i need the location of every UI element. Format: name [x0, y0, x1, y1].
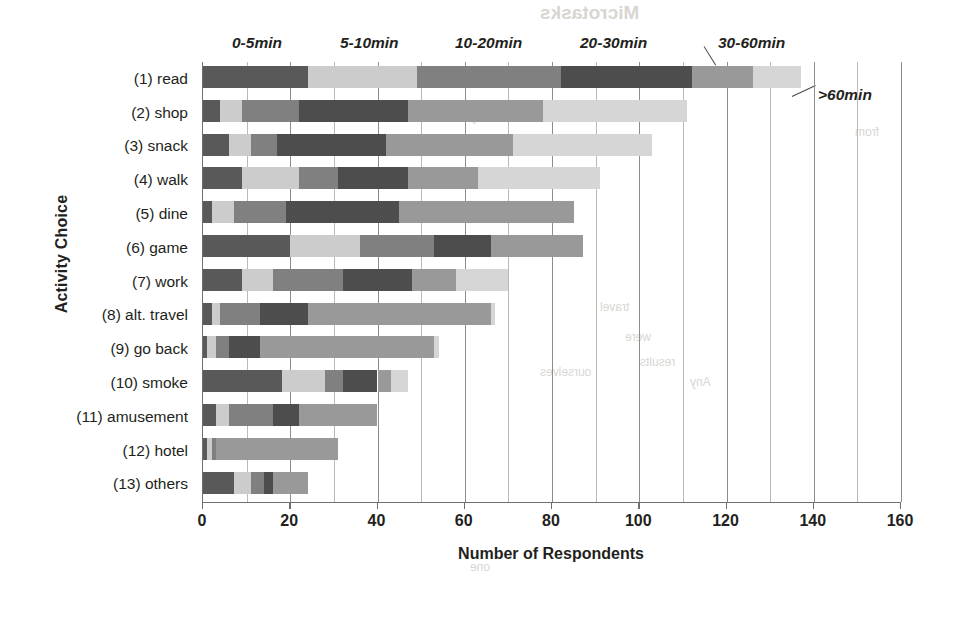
bar-segment: [308, 66, 417, 88]
bar-segment: [203, 66, 308, 88]
bar-segment: [251, 472, 264, 494]
legend-label-5-10min: 5-10min: [340, 34, 399, 52]
bar-segment: [242, 100, 299, 122]
bar-segment: [391, 370, 408, 392]
x-axis-tickmark: [551, 502, 552, 509]
y-axis-category-label: (2) shop: [0, 96, 196, 130]
bar-segment: [203, 201, 212, 223]
x-axis-tick-label: 0: [198, 512, 207, 530]
bar-segment: [543, 100, 687, 122]
bar-segment: [260, 303, 308, 325]
bar-row: [203, 167, 901, 189]
bar-segment: [338, 167, 408, 189]
y-axis-category-label: (4) walk: [0, 163, 196, 197]
bar-segment: [203, 472, 234, 494]
x-axis-tick-label: 160: [887, 512, 914, 530]
y-axis-category-label: (5) dine: [0, 197, 196, 231]
bar-segment: [216, 336, 229, 358]
ghost-text-title: Microtasks: [540, 2, 639, 24]
bar-segment: [299, 167, 338, 189]
y-axis-category-label: (12) hotel: [0, 434, 196, 468]
bar-segment: [408, 100, 543, 122]
x-axis-tick-label: 120: [712, 512, 739, 530]
bar-segment: [273, 404, 299, 426]
bar-segment: [264, 472, 273, 494]
bar-segment: [491, 303, 495, 325]
bar-row: [203, 370, 901, 392]
bar-row: [203, 66, 901, 88]
x-axis-tick-label: 140: [799, 512, 826, 530]
bar-segment: [456, 269, 508, 291]
bar-segment: [229, 134, 251, 156]
bar-segment: [251, 134, 277, 156]
x-axis-tick-label: 80: [542, 512, 560, 530]
bar-segment: [478, 167, 600, 189]
bar-segment: [203, 235, 290, 257]
legend-label-10-20min: 10-20min: [455, 34, 522, 52]
legend-label-30-60min: 30-60min: [718, 34, 785, 52]
bar-segment: [753, 66, 801, 88]
bar-row: [203, 235, 901, 257]
bar-segment: [399, 201, 574, 223]
bar-segment: [203, 303, 212, 325]
bar-segment: [417, 66, 561, 88]
bar-row: [203, 472, 901, 494]
x-axis-tickmark: [900, 502, 901, 509]
y-axis-category-label: (9) go back: [0, 332, 196, 366]
bar-segment: [434, 235, 491, 257]
bar-segment: [234, 201, 286, 223]
bar-segment: [277, 134, 386, 156]
x-axis-tick-label: 60: [455, 512, 473, 530]
bar-segment: [513, 134, 653, 156]
bar-segment: [242, 167, 299, 189]
y-axis-category-label: (8) alt. travel: [0, 299, 196, 333]
bar-row: [203, 438, 901, 460]
y-axis-category-label: (3) snack: [0, 130, 196, 164]
bar-segment: [216, 404, 229, 426]
legend-label-0-5min: 0-5min: [232, 34, 282, 52]
legend: 0-5min5-10min10-20min20-30min30-60min: [0, 34, 957, 58]
bar-segment: [260, 336, 435, 358]
bar-segment: [290, 235, 360, 257]
bar-row: [203, 269, 901, 291]
bar-segment: [203, 269, 242, 291]
bar-segment: [216, 438, 338, 460]
x-axis-tickmark: [289, 502, 290, 509]
x-axis-tick-label: 40: [368, 512, 386, 530]
bar-segment: [408, 167, 478, 189]
bar-segment: [434, 336, 438, 358]
y-axis-category-label: (10) smoke: [0, 366, 196, 400]
bar-segment: [203, 134, 229, 156]
bar-segment: [220, 100, 242, 122]
bar-row: [203, 201, 901, 223]
x-axis-tick-label: 20: [280, 512, 298, 530]
plot-area: [202, 62, 901, 502]
bar-segment: [343, 370, 378, 392]
x-axis-tickmark: [464, 502, 465, 509]
bar-segment: [212, 303, 221, 325]
bar-segment: [378, 370, 391, 392]
bar-segment: [286, 201, 399, 223]
y-axis-category-label: (6) game: [0, 231, 196, 265]
x-axis-tickmark: [638, 502, 639, 509]
bar-segment: [308, 303, 491, 325]
y-axis-category-label: (1) read: [0, 62, 196, 96]
bar-segment: [386, 134, 513, 156]
bar-segment: [203, 167, 242, 189]
x-axis-tickmark: [813, 502, 814, 509]
bar-segment: [207, 336, 216, 358]
bar-segment: [299, 100, 408, 122]
y-axis-category-label: (13) others: [0, 468, 196, 502]
y-axis-category-label: (7) work: [0, 265, 196, 299]
bar-segment: [412, 269, 456, 291]
bar-segment: [220, 303, 259, 325]
bar-segment: [360, 235, 434, 257]
bar-segment: [203, 370, 282, 392]
bar-segment: [273, 472, 308, 494]
bar-segment: [282, 370, 326, 392]
y-axis-category-label: (11) amusement: [0, 400, 196, 434]
bar-segment: [491, 235, 583, 257]
stacked-bar-chart: Microtasks study travel were results Any…: [0, 0, 957, 620]
bar-segment: [325, 370, 342, 392]
bar-segment: [242, 269, 273, 291]
